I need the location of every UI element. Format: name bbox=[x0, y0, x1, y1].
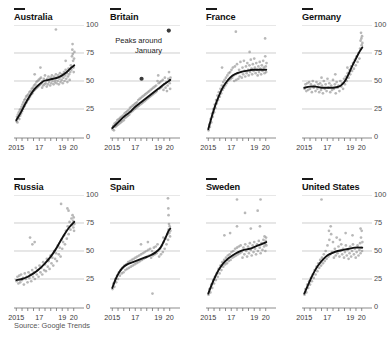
x-axis-tick-label: 17 bbox=[316, 143, 338, 152]
x-axis-tick-label: 20 bbox=[63, 143, 85, 152]
x-axis-tick-label: 2015 bbox=[293, 313, 315, 322]
x-axis-tick-label: 17 bbox=[220, 143, 242, 152]
y-axis-tick-label: 25 bbox=[374, 104, 391, 113]
y-axis-tick-label: 0 bbox=[374, 132, 391, 141]
plot-area bbox=[110, 195, 182, 319]
y-axis-tick-label: 100 bbox=[86, 20, 106, 29]
panel-rule bbox=[110, 8, 121, 10]
x-axis-tick-label: 2015 bbox=[101, 313, 123, 322]
y-axis-tick-label: 50 bbox=[374, 246, 391, 255]
x-axis-tick-label: 20 bbox=[351, 313, 373, 322]
y-axis-tick-label: 75 bbox=[86, 218, 106, 227]
x-axis-tick-label: 2015 bbox=[101, 143, 123, 152]
y-axis-tick-label: 25 bbox=[86, 274, 106, 283]
y-axis-tick-label: 0 bbox=[86, 302, 106, 311]
x-axis-tick-label: 20 bbox=[255, 313, 277, 322]
panel-rule bbox=[14, 178, 25, 180]
panel-title: United States bbox=[302, 182, 359, 192]
peaks-annotation: Peaks aroundJanuary bbox=[92, 36, 162, 55]
y-axis-tick-label: 75 bbox=[374, 218, 391, 227]
panel-title: Germany bbox=[302, 12, 341, 22]
x-axis-tick-label: 2015 bbox=[293, 143, 315, 152]
panel-title: Australia bbox=[14, 12, 52, 22]
x-axis-tick-label: 20 bbox=[255, 143, 277, 152]
y-axis-tick-label: 0 bbox=[86, 132, 106, 141]
x-axis-tick-label: 2015 bbox=[197, 143, 219, 152]
x-axis-tick-label: 17 bbox=[220, 313, 242, 322]
plot-area bbox=[206, 25, 278, 149]
y-axis-tick-label: 75 bbox=[374, 48, 391, 57]
x-axis-tick-label: 2015 bbox=[197, 313, 219, 322]
panel-title: Sweden bbox=[206, 182, 240, 192]
annotation-line-1: Peaks around bbox=[92, 36, 162, 46]
y-axis-tick-label: 100 bbox=[86, 190, 106, 199]
plot-area bbox=[14, 195, 86, 319]
source-note: Source: Google Trends bbox=[14, 321, 90, 330]
x-axis-tick-label: 20 bbox=[351, 143, 373, 152]
panel-rule bbox=[302, 178, 313, 180]
y-axis-tick-label: 50 bbox=[86, 246, 106, 255]
x-axis-tick-label: 17 bbox=[316, 313, 338, 322]
y-axis-tick-label: 25 bbox=[86, 104, 106, 113]
panel-rule bbox=[110, 178, 121, 180]
x-axis-tick-label: 17 bbox=[124, 143, 146, 152]
plot-area bbox=[302, 25, 374, 149]
y-axis-tick-label: 100 bbox=[374, 20, 391, 29]
plot-area bbox=[302, 195, 374, 319]
x-axis-tick-label: 20 bbox=[159, 143, 181, 152]
panel-title: Spain bbox=[110, 182, 135, 192]
annotation-line-2: January bbox=[92, 46, 162, 56]
panel-rule bbox=[302, 8, 313, 10]
x-axis-tick-label: 20 bbox=[159, 313, 181, 322]
panel-rule bbox=[206, 178, 217, 180]
y-axis-tick-label: 0 bbox=[374, 302, 391, 311]
panel-title: Britain bbox=[110, 12, 138, 22]
y-axis-tick-label: 50 bbox=[374, 76, 391, 85]
y-axis-tick-label: 50 bbox=[86, 76, 106, 85]
x-axis-tick-label: 2015 bbox=[5, 143, 27, 152]
y-axis-tick-label: 100 bbox=[374, 190, 391, 199]
x-axis-tick-label: 17 bbox=[124, 313, 146, 322]
plot-area bbox=[206, 195, 278, 319]
plot-area bbox=[14, 25, 86, 149]
panel-title: Russia bbox=[14, 182, 44, 192]
x-axis-tick-label: 17 bbox=[28, 143, 50, 152]
panel-title: France bbox=[206, 12, 236, 22]
panel-rule bbox=[14, 8, 25, 10]
panel-rule bbox=[206, 8, 217, 10]
y-axis-tick-label: 25 bbox=[374, 274, 391, 283]
